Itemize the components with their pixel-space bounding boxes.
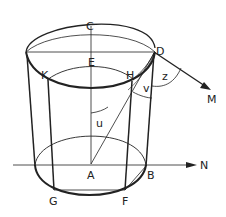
- ad-line: [91, 53, 154, 164]
- k-g-generator: [48, 80, 54, 190]
- cylinder-diagram: C E D K H v z M u A B N G F: [0, 0, 226, 217]
- label-d: D: [156, 45, 164, 58]
- label-e: E: [88, 56, 95, 69]
- fb-line: [125, 166, 146, 190]
- label-k: K: [41, 69, 49, 82]
- label-n: N: [200, 159, 208, 172]
- n-arrowhead-icon: [186, 162, 197, 168]
- label-a: A: [87, 169, 95, 182]
- label-v: v: [143, 82, 150, 95]
- label-f: F: [122, 195, 128, 208]
- label-g: G: [49, 195, 58, 208]
- label-c: C: [86, 20, 94, 33]
- label-z: z: [162, 70, 168, 83]
- label-h: H: [126, 69, 134, 82]
- top-inner-arc: [26, 35, 155, 52]
- label-m: M: [207, 93, 217, 106]
- dh-arc: [132, 53, 154, 80]
- label-u: u: [96, 117, 103, 130]
- label-b: B: [147, 169, 155, 182]
- angle-u-arc: [91, 107, 108, 113]
- left-outer-generator: [27, 55, 35, 166]
